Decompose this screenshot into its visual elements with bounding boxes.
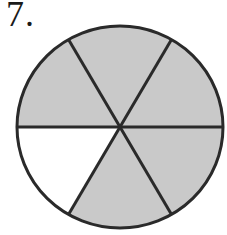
fraction-circle [0,0,227,235]
